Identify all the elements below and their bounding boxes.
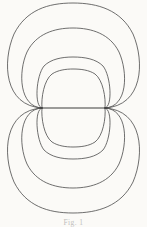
dipole-field-diagram	[0, 0, 147, 227]
lower-field-lines	[7, 108, 139, 213]
field-line-upper-third	[37, 57, 110, 108]
field-line-lower-inner	[42, 108, 105, 147]
field-line-upper-inner	[42, 69, 105, 108]
figure-caption: Fig. 1	[0, 219, 147, 227]
field-line-lower-outer	[7, 108, 139, 213]
upper-field-lines	[7, 3, 139, 108]
figure-container: Fig. 1	[0, 0, 147, 227]
field-line-upper-outer	[7, 3, 139, 108]
field-line-lower-third	[37, 108, 110, 159]
